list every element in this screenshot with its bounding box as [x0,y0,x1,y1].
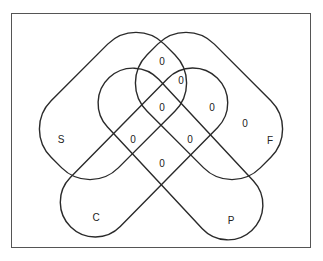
region-value: 0 [209,102,215,113]
region-value: 0 [242,118,248,129]
set-label-s: S [58,134,65,145]
region-value: 0 [130,134,136,145]
set-label-f: F [267,135,273,146]
region-value: 0 [159,102,165,113]
venn-diagram: S F C P 0 0 0 0 0 0 0 0 [0,0,323,261]
set-label-p: P [228,215,235,226]
region-value: 0 [159,56,165,67]
region-value: 0 [187,134,193,145]
region-value: 0 [159,158,165,169]
set-c-outline [46,53,242,251]
region-value: 0 [178,75,184,86]
set-label-c: C [92,212,99,223]
